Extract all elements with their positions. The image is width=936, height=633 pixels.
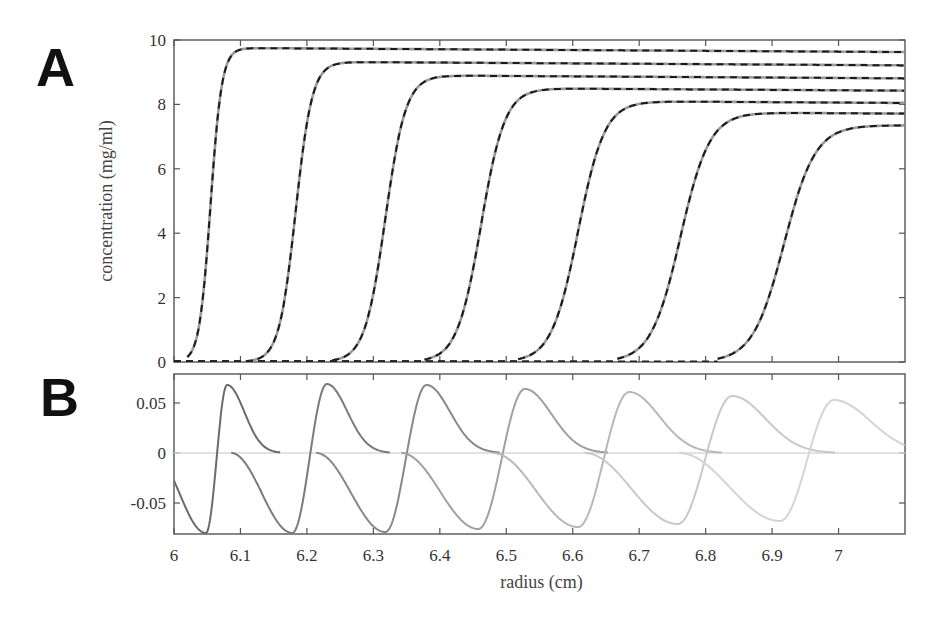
x-axis-title: radius (cm)	[500, 572, 582, 593]
y-axis-title: concentration (mg/ml)	[96, 120, 117, 281]
y-tick-label: 8	[158, 95, 167, 114]
y-tick-label: 6	[158, 160, 167, 179]
y-tick-label: 4	[158, 224, 167, 243]
data-curve	[246, 62, 905, 361]
x-tick-label: 6.2	[296, 546, 317, 565]
residual-curve	[493, 392, 722, 527]
panel-a-plot: 0246810concentration (mg/ml)	[96, 31, 905, 372]
fit-curve	[617, 113, 904, 359]
y-tick-label: 10	[149, 31, 166, 50]
x-tick-label: 6.1	[230, 546, 251, 565]
x-tick-label: 6.9	[761, 546, 782, 565]
data-curve	[425, 89, 905, 360]
x-tick-label: 6	[170, 546, 179, 565]
x-tick-label: 7	[834, 546, 843, 565]
figure: 0246810concentration (mg/ml) 66.16.26.36…	[0, 0, 936, 633]
fit-curve	[246, 62, 905, 361]
y-tick-label: 0.05	[136, 394, 166, 413]
x-tick-label: 6.3	[363, 546, 384, 565]
y-tick-label: -0.05	[131, 494, 166, 513]
panel-b-plot: 66.16.26.36.46.56.66.76.86.97-0.0500.05r…	[131, 374, 905, 593]
y-tick-label: 0	[158, 444, 167, 463]
fit-curve	[425, 89, 905, 360]
data-curve	[332, 76, 904, 361]
residual-curve	[174, 385, 280, 533]
residual-curve	[679, 400, 905, 521]
data-curve	[617, 113, 904, 359]
data-curve	[718, 125, 904, 358]
x-tick-label: 6.5	[496, 546, 517, 565]
fit-curve	[332, 76, 904, 361]
residual-curve	[401, 389, 608, 529]
y-tick-label: 0	[158, 353, 167, 372]
x-tick-label: 6.4	[429, 546, 451, 565]
x-tick-label: 6.7	[629, 546, 651, 565]
residual-curve	[585, 396, 835, 524]
x-tick-label: 6.8	[695, 546, 716, 565]
residual-curve	[231, 384, 390, 533]
x-tick-label: 6.6	[562, 546, 583, 565]
y-tick-label: 2	[158, 289, 167, 308]
residual-curve	[316, 385, 499, 532]
